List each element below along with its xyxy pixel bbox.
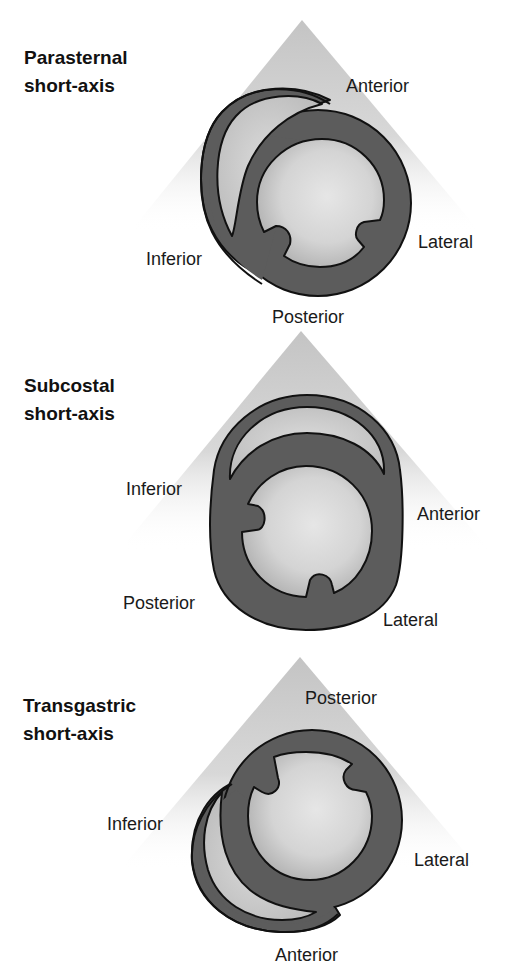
panel-title-line1: Parasternal xyxy=(24,47,128,68)
panel-title-line2: short-axis xyxy=(24,75,115,96)
panel-transgastric-short-axis: Transgastric short-axis Posterior Inferi… xyxy=(23,657,480,965)
panel-title-line1: Transgastric xyxy=(23,695,136,716)
panel-title-line2: short-axis xyxy=(23,723,114,744)
label-anterior: Anterior xyxy=(275,945,338,965)
label-inferior: Inferior xyxy=(107,814,163,834)
label-posterior: Posterior xyxy=(305,688,377,708)
panel-parasternal-short-axis: Parasternal short-axis Anterior Lateral … xyxy=(24,20,480,327)
left-ventricle-cavity xyxy=(242,466,372,597)
label-lateral: Lateral xyxy=(414,850,469,870)
panel-subcostal-short-axis: Subcostal short-axis Inferior Anterior P… xyxy=(24,331,490,630)
label-posterior: Posterior xyxy=(272,307,344,327)
panel-title-line1: Subcostal xyxy=(24,375,115,396)
heart-cross-section xyxy=(210,395,402,630)
short-axis-views-figure: Parasternal short-axis Anterior Lateral … xyxy=(0,0,519,974)
label-anterior: Anterior xyxy=(346,76,409,96)
panel-title-line2: short-axis xyxy=(24,403,115,424)
label-lateral: Lateral xyxy=(418,232,473,252)
label-anterior: Anterior xyxy=(417,504,480,524)
label-inferior: Inferior xyxy=(146,249,202,269)
label-posterior: Posterior xyxy=(123,593,195,613)
label-inferior: Inferior xyxy=(126,479,182,499)
label-lateral: Lateral xyxy=(383,610,438,630)
